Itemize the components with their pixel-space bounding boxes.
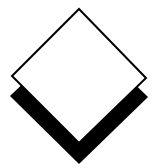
front-diamond <box>12 9 146 143</box>
diamond-graphic <box>0 0 155 168</box>
layered-diamond-icon <box>0 0 155 168</box>
